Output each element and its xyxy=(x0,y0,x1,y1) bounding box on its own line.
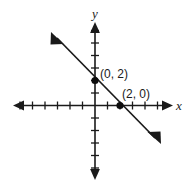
line-upper-left-arrowhead xyxy=(51,32,64,45)
y-axis-group xyxy=(90,22,100,180)
y-axis-down-arrowhead xyxy=(90,169,100,180)
x-axis-right-arrowhead xyxy=(162,101,173,111)
x-axis-left-arrowhead xyxy=(13,101,24,111)
point-marker-y-intercept xyxy=(91,77,98,84)
x-axis-label: x xyxy=(175,98,182,113)
x-axis-group xyxy=(13,101,173,111)
y-axis-label: y xyxy=(90,6,98,21)
graph-canvas: (0, 2) (2, 0) y x xyxy=(0,0,186,187)
y-axis-up-arrowhead xyxy=(90,22,100,33)
line-lower-right-arrowhead xyxy=(148,132,162,145)
coordinate-plane-figure: (0, 2) (2, 0) y x xyxy=(0,0,186,187)
point-marker-x-intercept xyxy=(116,102,123,109)
point-label-y-intercept: (0, 2) xyxy=(100,67,128,81)
point-label-x-intercept: (2, 0) xyxy=(122,87,150,101)
